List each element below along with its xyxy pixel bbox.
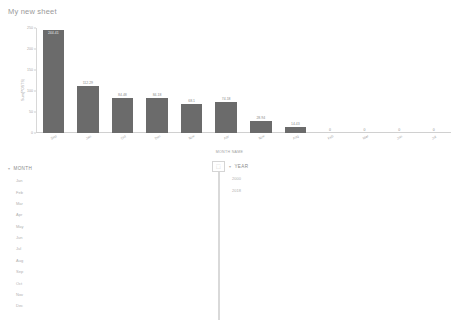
bar-column[interactable]: 84.18Dec: [146, 28, 167, 133]
year-filter-item[interactable]: 2000: [218, 173, 288, 184]
year-filter-list[interactable]: 20002018: [218, 173, 288, 196]
bar-column[interactable]: 0Mar: [354, 28, 375, 133]
bar-column[interactable]: 14.43Aug: [285, 28, 306, 133]
bar-value-label: 14.43: [291, 122, 300, 126]
month-filter-item[interactable]: Aug: [8, 255, 100, 266]
month-filter-item[interactable]: Feb: [8, 186, 100, 197]
bar-rect[interactable]: [215, 102, 236, 133]
y-axis-tick-label: 100: [27, 89, 33, 93]
resize-handle-icon[interactable]: ⬚: [216, 164, 221, 169]
x-axis-tick-label: Mar: [362, 134, 369, 140]
bar-value-label: 112.29: [83, 81, 93, 85]
bar-column[interactable]: 0Jun: [388, 28, 409, 133]
bar-value-label: 28.94: [256, 116, 265, 120]
month-filter-item[interactable]: Apr: [8, 209, 100, 220]
bar-chart-panel[interactable]: Sum(POSTS) 250200150100500244.41Sep112.2…: [0, 22, 459, 157]
year-filter-item[interactable]: 2018: [218, 184, 288, 195]
y-axis-tick-label: 150: [27, 68, 33, 72]
month-filter-item[interactable]: May: [8, 221, 100, 232]
month-filter-item[interactable]: Sep: [8, 266, 100, 277]
month-filter-item[interactable]: Dec: [8, 300, 100, 311]
x-axis-tick-label: Apr: [223, 134, 230, 140]
bar-column[interactable]: 68.1Nov: [181, 28, 202, 133]
x-axis-tick-label: Nov: [188, 134, 195, 140]
plot-area: 250200150100500244.41Sep112.29Jan84.48Oc…: [36, 28, 451, 133]
month-filter-title: MONTH: [13, 166, 32, 171]
year-filter-title: YEAR: [234, 164, 248, 169]
month-filter-panel[interactable]: ▾ MONTH JanFebMarAprMayJunJulAugSepOctNo…: [8, 166, 100, 312]
year-filter-panel[interactable]: ⬚ ▾ YEAR 20002018: [218, 164, 288, 196]
y-axis-tick-mark: [34, 112, 36, 113]
bar-value-label: 0: [364, 128, 366, 132]
bar-value-label: 0: [329, 128, 331, 132]
x-axis-tick-label: Nov: [258, 134, 265, 140]
bar-value-label: 0: [433, 128, 435, 132]
y-axis-tick-label: 0: [31, 131, 33, 135]
bar-rect[interactable]: [77, 86, 98, 133]
bar-value-label: 244.41: [48, 31, 59, 35]
bar-value-label: 84.48: [118, 93, 127, 97]
bar-rect[interactable]: [146, 98, 167, 133]
bar-column[interactable]: 112.29Jan: [77, 28, 98, 133]
month-filter-item[interactable]: Mar: [8, 198, 100, 209]
month-filter-item[interactable]: Nov: [8, 289, 100, 300]
year-filter-header[interactable]: ▾ YEAR: [218, 164, 288, 173]
bar-value-label: 0: [398, 128, 400, 132]
y-axis-tick-label: 200: [27, 47, 33, 51]
bar-column[interactable]: 0Jul: [423, 28, 444, 133]
bar-value-label: 74.18: [222, 97, 231, 101]
x-axis-tick-label: Oct: [120, 134, 127, 140]
bar-rect[interactable]: [181, 104, 202, 133]
y-axis-tick-mark: [34, 91, 36, 92]
y-axis-tick-mark: [34, 133, 36, 134]
bar-value-label: 68.1: [188, 99, 195, 103]
bar-column[interactable]: 74.18Apr: [215, 28, 236, 133]
y-axis-title: Sum(POSTS): [21, 79, 25, 101]
y-axis-tick-mark: [34, 28, 36, 29]
month-filter-header[interactable]: ▾ MONTH: [8, 166, 100, 175]
bar-column[interactable]: 244.41Sep: [43, 28, 64, 133]
month-filter-item[interactable]: Jun: [8, 232, 100, 243]
month-filter-item[interactable]: Jan: [8, 175, 100, 186]
month-filter-item[interactable]: Oct: [8, 277, 100, 288]
y-axis-tick-label: 250: [27, 26, 33, 30]
x-axis-tick-label: Jul: [431, 135, 437, 141]
y-axis-tick-mark: [34, 49, 36, 50]
chevron-down-icon[interactable]: ▾: [229, 165, 231, 169]
x-axis-tick-label: Feb: [327, 134, 334, 140]
month-filter-list[interactable]: JanFebMarAprMayJunJulAugSepOctNovDec: [8, 175, 100, 312]
x-axis-tick-label: Aug: [292, 134, 299, 140]
bar-rect[interactable]: [43, 30, 64, 133]
bar-column[interactable]: 0Feb: [319, 28, 340, 133]
bar-column[interactable]: 28.94Nov: [250, 28, 271, 133]
month-filter-item[interactable]: Jul: [8, 243, 100, 254]
bar-rect[interactable]: [112, 98, 133, 133]
x-axis-tick-label: Jun: [396, 134, 403, 140]
y-axis-tick-mark: [34, 70, 36, 71]
x-axis-tick-label: Sep: [50, 134, 57, 140]
x-axis-tick-label: Dec: [154, 134, 161, 140]
year-filter-rail[interactable]: [218, 172, 220, 320]
chevron-down-icon[interactable]: ▾: [8, 167, 10, 171]
year-filter-drag-handle[interactable]: ⬚: [212, 161, 225, 172]
bar-rect[interactable]: [285, 127, 306, 133]
bar-value-label: 84.18: [153, 93, 162, 97]
y-axis-tick-label: 50: [29, 110, 33, 114]
x-axis-tick-label: Jan: [85, 134, 92, 140]
bar-column[interactable]: 84.48Oct: [112, 28, 133, 133]
sheet-title: My new sheet: [8, 7, 57, 16]
bar-rect[interactable]: [250, 121, 271, 133]
x-axis-title: MONTH NAME: [216, 150, 244, 154]
